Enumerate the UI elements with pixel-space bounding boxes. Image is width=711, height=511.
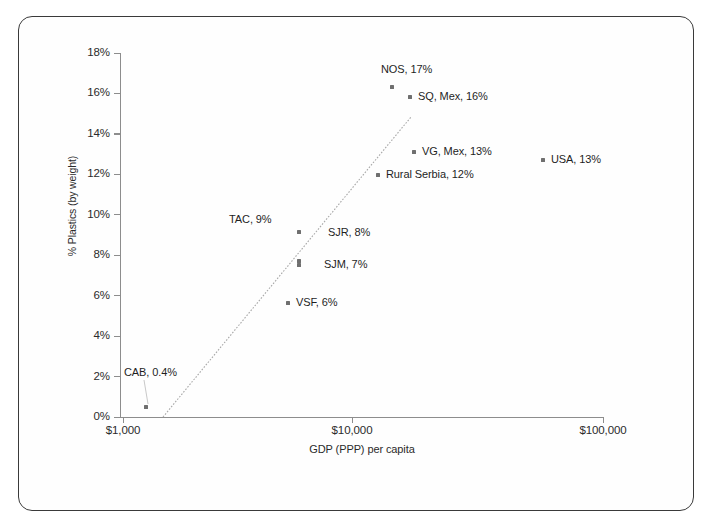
data-point bbox=[408, 95, 412, 99]
y-tick-12pct bbox=[114, 174, 120, 175]
y-tick-label-6pct: 6% bbox=[62, 289, 110, 301]
point-label: CAB, 0.4% bbox=[124, 366, 177, 378]
data-point bbox=[286, 301, 290, 305]
data-point bbox=[297, 263, 301, 267]
point-label: SQ, Mex, 16% bbox=[418, 90, 488, 102]
y-tick-2pct bbox=[114, 376, 120, 377]
y-axis-title: % Plastics (by weight) bbox=[66, 131, 78, 281]
x-tick-2 bbox=[603, 417, 604, 423]
data-point bbox=[144, 405, 148, 409]
data-point bbox=[390, 85, 394, 89]
y-tick-label-18pct: 18% bbox=[62, 46, 110, 58]
y-tick-label-0pct: 0% bbox=[62, 410, 110, 422]
y-tick-18pct bbox=[114, 53, 120, 54]
x-axis-line bbox=[120, 417, 604, 418]
point-label: VG, Mex, 13% bbox=[422, 145, 492, 157]
point-label: SJR, 8% bbox=[328, 226, 370, 238]
y-tick-14pct bbox=[114, 133, 120, 134]
data-point bbox=[412, 150, 416, 154]
point-label: SJM, 7% bbox=[324, 258, 367, 270]
x-axis-title: GDP (PPP) per capita bbox=[242, 443, 482, 455]
y-tick-10pct bbox=[114, 214, 120, 215]
point-label: Rural Serbia, 12% bbox=[386, 168, 474, 180]
y-tick-0pct bbox=[114, 417, 120, 418]
y-tick-label-16pct: 16% bbox=[62, 86, 110, 98]
x-tick-1 bbox=[352, 417, 353, 423]
y-tick-6pct bbox=[114, 295, 120, 296]
data-point bbox=[376, 173, 380, 177]
x-tick-label-0: $1,000 bbox=[68, 424, 178, 436]
x-tick-label-2: $100,000 bbox=[548, 424, 658, 436]
point-label: USA, 13% bbox=[551, 153, 601, 165]
point-label: TAC, 9% bbox=[229, 213, 272, 225]
point-label: VSF, 6% bbox=[296, 296, 338, 308]
x-tick-0 bbox=[123, 417, 124, 423]
point-label: NOS, 17% bbox=[381, 63, 432, 75]
data-point bbox=[541, 158, 545, 162]
y-tick-label-2pct: 2% bbox=[62, 370, 110, 382]
y-axis-line bbox=[120, 53, 121, 418]
y-tick-label-4pct: 4% bbox=[62, 329, 110, 341]
y-tick-4pct bbox=[114, 336, 120, 337]
y-tick-16pct bbox=[114, 93, 120, 94]
y-tick-8pct bbox=[114, 255, 120, 256]
x-tick-label-1: $10,000 bbox=[297, 424, 407, 436]
data-point bbox=[297, 259, 301, 263]
data-point bbox=[297, 230, 301, 234]
